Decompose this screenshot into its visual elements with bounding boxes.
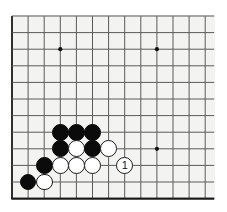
white-stone — [52, 157, 69, 174]
black-stone — [84, 140, 101, 157]
white-stone — [36, 174, 53, 191]
white-stone — [100, 140, 117, 157]
black-stone — [68, 124, 85, 141]
move-number-label: 1 — [122, 159, 128, 170]
black-stone — [20, 174, 37, 191]
go-board-diagram: 1 — [0, 0, 227, 212]
white-stone — [84, 157, 101, 174]
black-stone — [52, 124, 69, 141]
move-stone-1: 1 — [116, 157, 133, 174]
white-stone — [68, 140, 85, 157]
black-stone — [84, 124, 101, 141]
stone-layer: 1 — [0, 0, 227, 212]
black-stone — [36, 157, 53, 174]
black-stone — [52, 140, 69, 157]
white-stone — [68, 157, 85, 174]
